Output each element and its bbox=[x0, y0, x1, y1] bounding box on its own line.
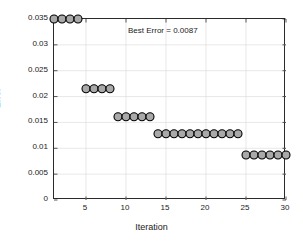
data-point-marker bbox=[90, 85, 98, 93]
data-point-marker bbox=[162, 130, 170, 138]
data-point-marker bbox=[210, 130, 218, 138]
y-axis-tick-label: 0.025 bbox=[28, 66, 48, 74]
y-axis-tick-label: 0.015 bbox=[28, 117, 48, 125]
x-axis-tick-label: 15 bbox=[161, 204, 170, 212]
data-point-marker bbox=[146, 113, 154, 121]
data-point-marker bbox=[266, 151, 274, 159]
data-point-marker bbox=[170, 130, 178, 138]
data-point-marker bbox=[178, 130, 186, 138]
y-axis-tick-label: 0.005 bbox=[28, 169, 48, 177]
data-point-marker bbox=[282, 151, 290, 159]
data-point-marker bbox=[186, 130, 194, 138]
data-point-marker bbox=[154, 130, 162, 138]
y-axis-tick-label: 0.02 bbox=[32, 92, 48, 100]
data-point-marker bbox=[82, 85, 90, 93]
data-point-marker bbox=[74, 15, 82, 23]
y-axis-tick-label: 0 bbox=[44, 195, 48, 203]
data-point-marker bbox=[274, 151, 282, 159]
data-point-marker bbox=[106, 85, 114, 93]
x-axis-title: Iteration bbox=[0, 222, 303, 232]
plot-area bbox=[53, 18, 285, 199]
data-point-marker bbox=[202, 130, 210, 138]
y-axis-tick-label: 0.03 bbox=[32, 40, 48, 48]
data-point-marker bbox=[242, 151, 250, 159]
x-axis-tick-label: 5 bbox=[83, 204, 87, 212]
data-point-marker bbox=[250, 151, 258, 159]
data-point-marker bbox=[194, 130, 202, 138]
data-point-marker bbox=[138, 113, 146, 121]
chart-figure: Error Iteration 00.0050.010.0150.020.025… bbox=[0, 0, 303, 241]
x-axis-tick-label: 10 bbox=[121, 204, 130, 212]
data-point-marker bbox=[218, 130, 226, 138]
data-point-marker bbox=[98, 85, 106, 93]
x-axis-tick-label: 20 bbox=[201, 204, 210, 212]
scatter-series bbox=[54, 19, 284, 198]
y-axis-title: Error bbox=[0, 88, 2, 108]
data-point-marker bbox=[114, 113, 122, 121]
data-point-marker bbox=[234, 130, 242, 138]
y-axis-tick-label: 0.035 bbox=[28, 14, 48, 22]
x-axis-tick-label: 25 bbox=[241, 204, 250, 212]
data-point-marker bbox=[66, 15, 74, 23]
data-point-marker bbox=[258, 151, 266, 159]
best-error-annotation: Best Error = 0.0087 bbox=[128, 26, 198, 35]
data-point-marker bbox=[226, 130, 234, 138]
data-point-marker bbox=[130, 113, 138, 121]
y-axis-tick-label: 0.01 bbox=[32, 143, 48, 151]
x-axis-tick-label: 30 bbox=[281, 204, 290, 212]
data-point-marker bbox=[50, 15, 58, 23]
data-point-marker bbox=[122, 113, 130, 121]
data-point-marker bbox=[58, 15, 66, 23]
